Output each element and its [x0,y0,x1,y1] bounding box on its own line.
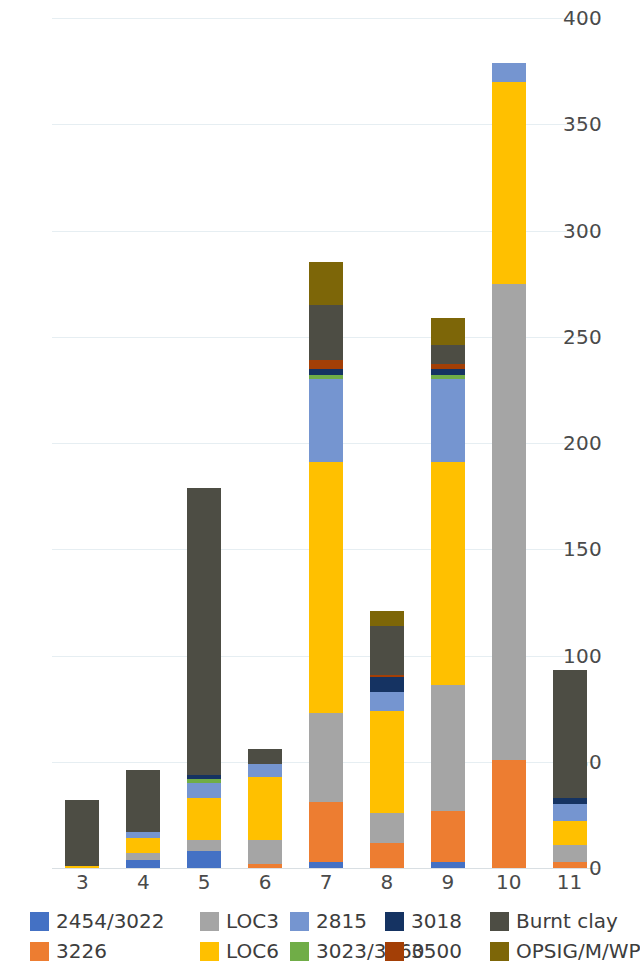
bar-segment[interactable] [431,369,465,375]
bar-segment[interactable] [309,462,343,713]
bar-segment[interactable] [431,685,465,810]
bar-segment[interactable] [248,777,282,841]
bar-segment[interactable] [553,821,587,844]
bar-segment[interactable] [248,749,282,764]
bar-segment[interactable] [370,677,404,692]
bar-segment[interactable] [248,864,282,868]
x-tick-label: 4 [113,871,173,893]
bar-segment[interactable] [187,840,221,851]
bar-column[interactable] [248,749,282,868]
legend-label: 3226 [56,941,107,961]
x-tick-label: 11 [540,871,600,893]
bars-group [52,0,600,868]
plot-area: 050100150200250300350400 34567891011 [0,0,602,890]
bar-segment[interactable] [553,862,587,868]
bar-segment[interactable] [370,711,404,813]
legend-swatch-icon [30,942,49,961]
x-tick-label: 7 [296,871,356,893]
bar-segment[interactable] [370,692,404,711]
bar-segment[interactable] [309,713,343,802]
bar-segment[interactable] [431,379,465,462]
bar-segment[interactable] [309,369,343,375]
legend-item[interactable]: Burnt clay [490,906,618,936]
legend-swatch-icon [290,912,309,931]
bar-segment[interactable] [126,832,160,838]
bar-segment[interactable] [370,611,404,626]
legend-item[interactable]: 3226 [30,936,107,966]
legend-item[interactable]: LOC6 [200,936,279,966]
bar-segment[interactable] [187,775,221,779]
x-tick-label: 5 [174,871,234,893]
bar-column[interactable] [187,488,221,868]
bar-segment[interactable] [309,862,343,868]
bar-segment[interactable] [553,845,587,862]
bar-column[interactable] [492,63,526,868]
bar-segment[interactable] [65,800,99,866]
legend-item[interactable]: OPSIG/M/WP [490,936,640,966]
bar-segment[interactable] [370,813,404,843]
bar-column[interactable] [309,262,343,868]
legend-swatch-icon [385,912,404,931]
bar-segment[interactable] [126,770,160,832]
legend-swatch-icon [385,942,404,961]
legend-swatch-icon [490,942,509,961]
bar-column[interactable] [126,770,160,868]
bar-segment[interactable] [431,345,465,364]
bar-column[interactable] [370,611,404,868]
legend-label: 3018 [411,911,462,931]
bar-segment[interactable] [187,488,221,775]
legend-item[interactable]: 2454/3022 [30,906,165,936]
bar-column[interactable] [553,670,587,868]
legend-item[interactable]: 3018 [385,906,462,936]
x-tick-label: 6 [235,871,295,893]
legend-label: 2454/3022 [56,911,165,931]
bar-segment[interactable] [370,675,404,677]
bar-segment[interactable] [431,462,465,685]
bar-segment[interactable] [309,262,343,305]
bar-segment[interactable] [126,838,160,853]
bar-segment[interactable] [248,764,282,777]
legend-swatch-icon [200,912,219,931]
bar-segment[interactable] [370,843,404,869]
legend-item[interactable]: 2815 [290,906,367,936]
bar-segment[interactable] [309,379,343,462]
bar-segment[interactable] [431,811,465,862]
bar-column[interactable] [431,318,465,868]
bar-segment[interactable] [126,853,160,859]
legend-item[interactable]: 3500 [385,936,462,966]
legend-row-bottom: 3226LOC63023/30603500OPSIG/M/WP [0,936,602,966]
bar-segment[interactable] [492,82,526,284]
x-tick-label: 8 [357,871,417,893]
bar-segment[interactable] [309,375,343,379]
bar-segment[interactable] [309,305,343,360]
bar-segment[interactable] [126,860,160,869]
bar-segment[interactable] [187,798,221,841]
bar-segment[interactable] [370,626,404,675]
bar-segment[interactable] [309,360,343,369]
bar-segment[interactable] [492,760,526,868]
bar-segment[interactable] [553,798,587,804]
bar-segment[interactable] [553,670,587,798]
x-tick-label: 10 [479,871,539,893]
x-tick-label: 3 [52,871,112,893]
bar-segment[interactable] [492,284,526,760]
bar-segment[interactable] [431,364,465,368]
legend-item[interactable]: LOC3 [200,906,279,936]
bar-segment[interactable] [492,63,526,82]
bar-segment[interactable] [187,783,221,798]
gridline-0 [52,868,600,869]
bar-segment[interactable] [309,802,343,862]
bar-segment[interactable] [187,851,221,868]
legend: 2454/3022LOC328153018Burnt clay 3226LOC6… [0,900,602,977]
bar-segment[interactable] [431,375,465,379]
legend-swatch-icon [30,912,49,931]
bar-column[interactable] [65,800,99,868]
bar-segment[interactable] [553,804,587,821]
bar-segment[interactable] [65,866,99,868]
bar-segment[interactable] [431,862,465,868]
bar-segment[interactable] [248,840,282,863]
bar-segment[interactable] [431,318,465,346]
legend-label: Burnt clay [516,911,618,931]
bar-segment[interactable] [187,779,221,783]
